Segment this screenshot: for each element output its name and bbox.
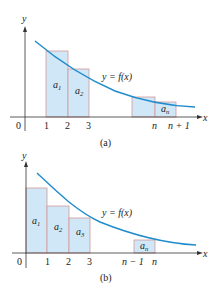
tick-0: 0 xyxy=(17,256,22,267)
tick-3: 3 xyxy=(87,256,92,267)
tick-0: 0 xyxy=(16,120,21,131)
tick-3: 3 xyxy=(86,120,91,131)
tick-n-minus-1: n − 1 xyxy=(122,256,144,267)
y-axis-label: y xyxy=(21,150,27,161)
integral-test-diagram: y x 0 1 2 3 n n + 1 a1 a2 an y = f(x) (a… xyxy=(0,0,211,302)
tick-n: n xyxy=(152,256,157,267)
tick-2: 2 xyxy=(66,256,71,267)
x-axis-label: x xyxy=(202,112,208,123)
tick-1: 1 xyxy=(45,256,50,267)
tick-n: n xyxy=(152,120,157,131)
panel-a: y x 0 1 2 3 n n + 1 a1 a2 an y = f(x) (a… xyxy=(10,13,208,149)
tick-n-plus-1: n + 1 xyxy=(168,120,190,131)
tick-2: 2 xyxy=(65,120,70,131)
caption-a: (a) xyxy=(100,137,111,149)
y-axis-label: y xyxy=(21,13,27,24)
panel-b: y x 0 1 2 3 n − 1 n a1 a2 a3 an y = f(x)… xyxy=(12,150,208,284)
x-axis-label: x xyxy=(202,248,208,259)
y-axis-arrow-icon xyxy=(24,161,28,167)
caption-b: (b) xyxy=(100,272,112,284)
curve-label: y = f(x) xyxy=(101,71,133,83)
curve-label: y = f(x) xyxy=(101,207,133,219)
y-axis-arrow-icon xyxy=(23,26,27,32)
tick-1: 1 xyxy=(44,120,49,131)
